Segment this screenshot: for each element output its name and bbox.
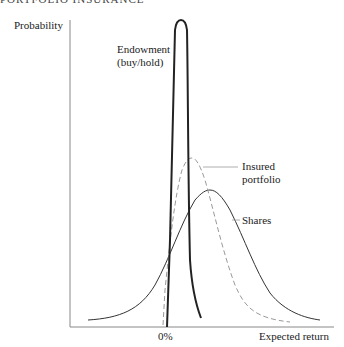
x-tick-zero: 0% — [158, 330, 173, 343]
endowment-label-line2: (buy/hold) — [117, 56, 163, 69]
endowment-curve — [167, 20, 201, 327]
shares-curve — [88, 190, 320, 320]
x-axis-label: Expected return — [259, 330, 329, 343]
y-axis-label: Probability — [14, 19, 63, 32]
distribution-chart — [0, 0, 344, 347]
insured-label-line2: portfolio — [242, 173, 281, 186]
insured-label-line1: Insured — [242, 160, 275, 173]
endowment-label-line1: Endowment — [117, 43, 170, 56]
shares-label: Shares — [242, 214, 271, 227]
